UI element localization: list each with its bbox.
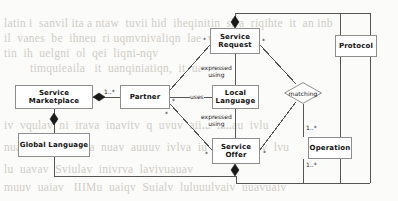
- node-label-partner: Partner: [130, 93, 161, 102]
- uml-class-diagram: Service Marketplace Global Language Part…: [0, 0, 398, 201]
- composition-diamond-serviceoffer-bottom: [231, 164, 239, 176]
- composition-diamond-marketplace-globallanguage: [50, 113, 58, 125]
- node-global-language[interactable]: Global Language: [18, 133, 90, 157]
- multiplicity-offer-right: *: [263, 149, 266, 156]
- multiplicity-request-left: *: [203, 36, 206, 43]
- node-partner[interactable]: Partner: [120, 85, 170, 109]
- multiplicity-offer-left: *: [205, 150, 208, 157]
- node-service-offer[interactable]: Service Offer: [212, 138, 260, 164]
- node-label-matching: matching: [284, 82, 322, 104]
- multiplicity-matching-operation: 1..*: [306, 124, 317, 131]
- edge-label-expressed-using-top: expressed using: [201, 64, 232, 78]
- multiplicity-request-right: *: [262, 37, 265, 44]
- node-label-protocol: Protocol: [339, 42, 373, 51]
- node-service-marketplace[interactable]: Service Marketplace: [15, 85, 93, 109]
- edge-label-uses: uses: [190, 93, 204, 100]
- node-label-service-marketplace: Service Marketplace: [16, 89, 92, 106]
- multiplicity-partner-offer: *: [165, 110, 168, 117]
- node-label-global-language: Global Language: [20, 141, 88, 150]
- node-protocol[interactable]: Protocol: [335, 35, 377, 57]
- edge-serviceoffer-matching: [260, 102, 296, 150]
- node-label-service-offer: Service Offer: [213, 143, 259, 160]
- node-local-language[interactable]: Local Language: [212, 85, 259, 109]
- node-matching[interactable]: matching: [284, 82, 322, 104]
- node-service-request[interactable]: Service Request: [210, 28, 260, 54]
- multiplicity-marketplace-partner: 1..*: [104, 88, 115, 95]
- edge-servicerequest-matching: [260, 45, 296, 84]
- edge-label-expressed-using-bottom: expressed using: [201, 113, 232, 127]
- composition-diamond-servicerequest-top: [231, 16, 239, 28]
- multiplicity-operation-bottom: 1..*: [306, 161, 317, 168]
- node-label-local-language: Local Language: [213, 89, 258, 106]
- node-label-service-request: Service Request: [211, 33, 259, 50]
- edge-partner-serviceoffer: [170, 104, 212, 150]
- multiplicity-partner-language: *: [172, 97, 175, 104]
- node-label-operation: Operation: [310, 144, 351, 153]
- node-operation[interactable]: Operation: [308, 137, 352, 159]
- diagram-page: latin i sanvil ita a ntaw tuvii hid iheq…: [0, 0, 398, 201]
